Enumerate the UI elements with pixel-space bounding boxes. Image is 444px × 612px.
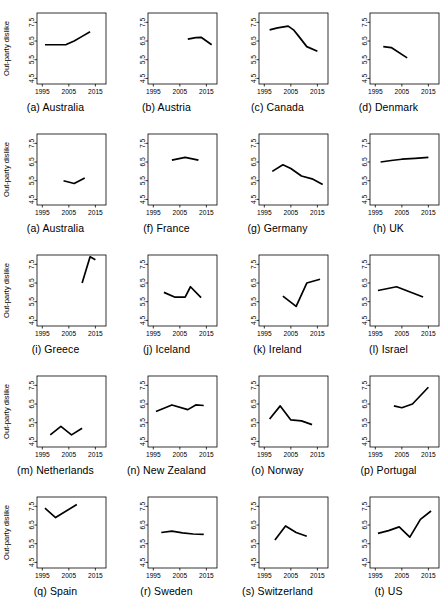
y-tick-label: 5.5 bbox=[251, 176, 258, 185]
y-tick-label: 6.5 bbox=[251, 278, 258, 287]
y-tick-label: 7.5 bbox=[251, 17, 258, 26]
chart-panel-switzerland: 4.55.56.57.5199520052015(s) Switzerland bbox=[222, 486, 333, 607]
plot-area: 4.55.56.57.5199520052015 bbox=[333, 365, 444, 464]
chart-panel-spain: 4.55.56.57.5199520052015Out-party dislik… bbox=[0, 486, 111, 607]
x-tick-label: 1995 bbox=[257, 451, 272, 458]
y-tick-label: 6.5 bbox=[140, 399, 147, 408]
y-tick-label: 7.5 bbox=[251, 259, 258, 268]
chart-panel-uk: 4.55.56.57.5199520052015(h) UK bbox=[333, 123, 444, 244]
y-tick-label: 7.5 bbox=[140, 501, 147, 510]
x-tick-label: 2015 bbox=[310, 88, 325, 95]
chart-panel-germany: 4.55.56.57.5199520052015(g) Germany bbox=[222, 123, 333, 244]
y-tick-label: 4.5 bbox=[251, 73, 258, 82]
y-axis-label: Out-party dislike bbox=[2, 142, 11, 197]
y-tick-label: 4.5 bbox=[140, 73, 147, 82]
y-tick-label: 6.5 bbox=[29, 36, 36, 45]
series-line bbox=[378, 511, 431, 537]
panel-caption: (s) Switzerland bbox=[222, 585, 333, 597]
chart-panel-canada: 4.55.56.57.5199520052015(c) Canada bbox=[222, 2, 333, 123]
x-tick-label: 1995 bbox=[368, 572, 383, 579]
y-tick-label: 5.5 bbox=[251, 418, 258, 427]
x-tick-label: 2005 bbox=[173, 451, 188, 458]
chart-panel-ireland: 4.55.56.57.5199520052015(k) Ireland bbox=[222, 244, 333, 365]
panel-caption: (i) Greece bbox=[0, 343, 111, 355]
y-tick-label: 5.5 bbox=[29, 55, 36, 64]
y-tick-label: 5.5 bbox=[251, 539, 258, 548]
x-tick-label: 1995 bbox=[35, 330, 50, 337]
y-tick-label: 6.5 bbox=[140, 157, 147, 166]
x-tick-label: 1995 bbox=[368, 451, 383, 458]
y-tick-label: 7.5 bbox=[29, 501, 36, 510]
x-tick-label: 2015 bbox=[199, 88, 214, 95]
chart-panel-sweden: 4.55.56.57.5199520052015(r) Sweden bbox=[111, 486, 222, 607]
panel-caption: (a) Australia bbox=[0, 101, 111, 113]
y-tick-label: 7.5 bbox=[140, 17, 147, 26]
y-tick-label: 5.5 bbox=[140, 55, 147, 64]
x-tick-label: 1995 bbox=[146, 572, 161, 579]
y-tick-label: 6.5 bbox=[29, 520, 36, 529]
panel-caption: (f) France bbox=[111, 222, 222, 234]
y-tick-label: 6.5 bbox=[140, 520, 147, 529]
x-tick-label: 2005 bbox=[173, 209, 188, 216]
y-tick-label: 6.5 bbox=[29, 399, 36, 408]
x-tick-label: 2005 bbox=[395, 451, 410, 458]
series-line bbox=[272, 165, 322, 185]
y-tick-label: 4.5 bbox=[29, 436, 36, 445]
x-tick-label: 2005 bbox=[173, 88, 188, 95]
chart-panel-new-zealand: 4.55.56.57.5199520052015(n) New Zealand bbox=[111, 365, 222, 486]
plot-area: 4.55.56.57.5199520052015 bbox=[222, 486, 333, 585]
y-tick-label: 4.5 bbox=[362, 194, 369, 203]
y-tick-label: 7.5 bbox=[362, 138, 369, 147]
panel-grid: 4.55.56.57.5199520052015Out-party dislik… bbox=[0, 0, 444, 612]
y-tick-label: 4.5 bbox=[251, 557, 258, 566]
y-tick-label: 4.5 bbox=[140, 194, 147, 203]
x-tick-label: 2015 bbox=[88, 572, 103, 579]
x-tick-label: 2015 bbox=[421, 209, 436, 216]
panel-caption: (n) New Zealand bbox=[111, 464, 222, 476]
x-tick-label: 1995 bbox=[368, 88, 383, 95]
x-tick-label: 2005 bbox=[284, 451, 299, 458]
series-line bbox=[172, 157, 199, 160]
y-tick-label: 5.5 bbox=[362, 297, 369, 306]
x-tick-label: 2015 bbox=[88, 209, 103, 216]
x-tick-label: 2015 bbox=[310, 451, 325, 458]
plot-area: 4.55.56.57.5199520052015 bbox=[111, 244, 222, 343]
y-tick-label: 6.5 bbox=[251, 157, 258, 166]
y-tick-label: 4.5 bbox=[251, 436, 258, 445]
plot-area: 4.55.56.57.5199520052015Out-party dislik… bbox=[0, 123, 111, 222]
y-tick-label: 4.5 bbox=[140, 315, 147, 324]
series-line bbox=[161, 531, 203, 534]
y-tick-label: 6.5 bbox=[251, 36, 258, 45]
chart-panel-iceland: 4.55.56.57.5199520052015(j) Iceland bbox=[111, 244, 222, 365]
plot-area: 4.55.56.57.5199520052015Out-party dislik… bbox=[0, 2, 111, 101]
x-tick-label: 2005 bbox=[284, 209, 299, 216]
x-tick-label: 2015 bbox=[421, 451, 436, 458]
x-tick-label: 1995 bbox=[35, 88, 50, 95]
x-tick-label: 1995 bbox=[257, 209, 272, 216]
y-axis-label: Out-party dislike bbox=[2, 384, 11, 439]
y-tick-label: 4.5 bbox=[140, 436, 147, 445]
y-tick-label: 5.5 bbox=[29, 176, 36, 185]
x-tick-label: 2015 bbox=[310, 209, 325, 216]
y-tick-label: 7.5 bbox=[251, 501, 258, 510]
y-axis-label: Out-party dislike bbox=[2, 505, 11, 560]
y-tick-label: 5.5 bbox=[140, 176, 147, 185]
x-tick-label: 1995 bbox=[35, 209, 50, 216]
y-tick-label: 6.5 bbox=[29, 157, 36, 166]
y-tick-label: 4.5 bbox=[362, 315, 369, 324]
x-tick-label: 2005 bbox=[284, 330, 299, 337]
panel-caption: (b) Austria bbox=[111, 101, 222, 113]
plot-area: 4.55.56.57.5199520052015 bbox=[333, 486, 444, 585]
plot-area: 4.55.56.57.5199520052015 bbox=[222, 123, 333, 222]
plot-area: 4.55.56.57.5199520052015 bbox=[111, 486, 222, 585]
y-tick-label: 6.5 bbox=[362, 520, 369, 529]
series-line bbox=[82, 257, 95, 283]
y-tick-label: 5.5 bbox=[29, 418, 36, 427]
y-tick-label: 7.5 bbox=[251, 380, 258, 389]
series-line bbox=[188, 37, 212, 44]
y-tick-label: 5.5 bbox=[362, 176, 369, 185]
y-tick-label: 7.5 bbox=[140, 380, 147, 389]
y-tick-label: 5.5 bbox=[251, 55, 258, 64]
plot-area: 4.55.56.57.5199520052015Out-party dislik… bbox=[0, 244, 111, 343]
y-tick-label: 5.5 bbox=[29, 297, 36, 306]
